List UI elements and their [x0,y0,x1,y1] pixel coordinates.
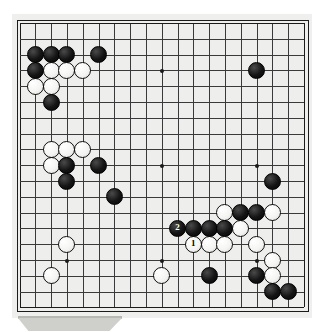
star-point [255,259,259,263]
stone-black[interactable] [90,157,107,174]
stone-white[interactable] [43,141,60,158]
stone-white[interactable] [43,267,60,284]
stone-white[interactable] [264,267,281,284]
star-point [160,259,164,263]
grid-line-horizontal [20,134,304,135]
grid-line-vertical [304,23,305,307]
stone-white[interactable] [201,236,218,253]
stone-black[interactable] [90,46,107,63]
grid-line-horizontal [20,118,304,119]
stone-black[interactable] [43,46,60,63]
stone-white[interactable] [264,252,281,269]
stone-black[interactable] [185,220,202,237]
stone-white[interactable] [43,78,60,95]
go-board[interactable]: 21 [17,20,309,312]
move-number-label: 1 [191,239,196,248]
stone-black[interactable] [27,46,44,63]
stone-white[interactable] [43,157,60,174]
stone-black[interactable] [58,157,75,174]
grid-line-horizontal [20,39,304,40]
stone-black[interactable] [106,188,123,205]
grid-line-horizontal [20,23,304,24]
stone-white[interactable] [27,78,44,95]
stone-white[interactable] [216,236,233,253]
stone-black[interactable] [201,220,218,237]
stone-white[interactable] [74,141,91,158]
stone-black[interactable] [58,173,75,190]
stone-black[interactable] [248,204,265,221]
stone-black[interactable] [43,94,60,111]
stone-black[interactable] [201,267,218,284]
stone-black[interactable] [264,173,281,190]
grid-line-horizontal [20,307,304,308]
stone-black[interactable] [264,283,281,300]
stone-black[interactable] [27,62,44,79]
stone-white[interactable] [74,62,91,79]
move-number-label: 2 [175,223,180,232]
board-stand [18,318,122,331]
grid-line-horizontal [20,102,304,103]
grid-line-horizontal [20,292,304,293]
stone-white[interactable] [264,204,281,221]
star-point [160,69,164,73]
grid-line-horizontal [20,86,304,87]
go-diagram-page: 21 [0,0,323,332]
stone-white[interactable] [58,236,75,253]
star-point [160,164,164,168]
stone-black[interactable] [280,283,297,300]
stone-white[interactable] [232,220,249,237]
stone-black-move-2[interactable]: 2 [169,220,186,237]
stone-white[interactable] [43,62,60,79]
star-point [255,164,259,168]
grid-line-horizontal [20,197,304,198]
star-point [65,259,69,263]
stone-white-move-1[interactable]: 1 [185,236,202,253]
stone-black[interactable] [248,62,265,79]
stone-white[interactable] [248,236,265,253]
grid-line-horizontal [20,228,304,229]
